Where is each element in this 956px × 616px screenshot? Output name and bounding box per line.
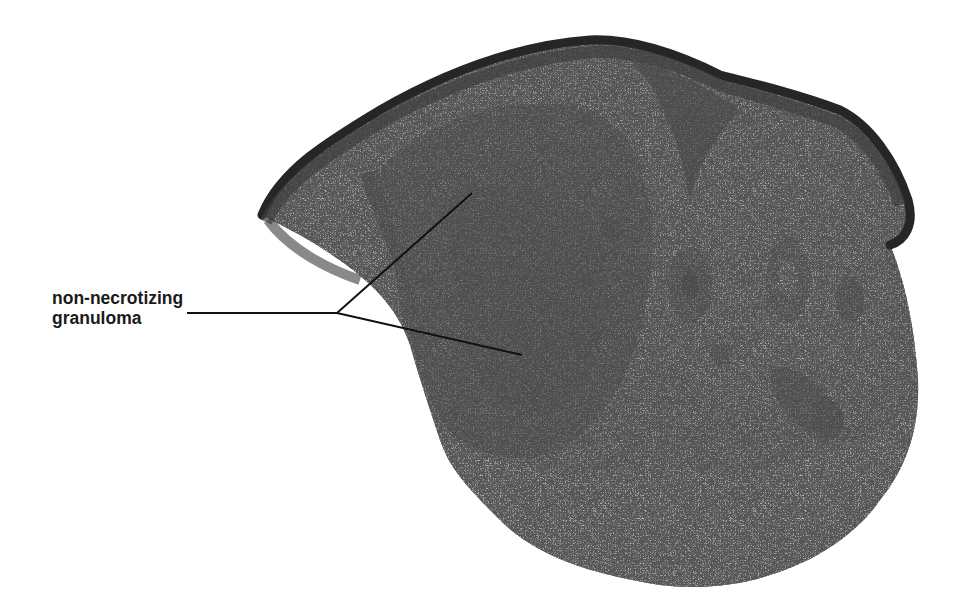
granuloma-annotation-label: non-necrotizing granuloma [52,288,183,328]
label-line-2: granuloma [52,308,183,328]
label-line-1: non-necrotizing [52,288,183,308]
micrograph-figure: non-necrotizing granuloma [0,0,956,616]
